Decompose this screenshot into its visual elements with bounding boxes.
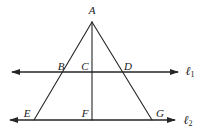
transversal-lines bbox=[10, 72, 178, 120]
line-label-l2: ℓ2 bbox=[184, 114, 193, 126]
line-label-l1-subscript: 1 bbox=[191, 70, 195, 79]
geometry-figure: A B C D E F G ℓ1 ℓ2 bbox=[0, 0, 208, 138]
triangle-segments bbox=[34, 22, 152, 120]
point-label-f: F bbox=[82, 108, 89, 119]
point-label-e: E bbox=[24, 108, 31, 119]
line-label-l1: ℓ1 bbox=[186, 65, 195, 77]
line-label-l2-subscript: 2 bbox=[189, 119, 193, 128]
point-label-a: A bbox=[89, 5, 96, 16]
segment-a-g bbox=[92, 22, 152, 120]
geometry-canvas bbox=[0, 0, 208, 138]
point-label-d: D bbox=[124, 61, 132, 72]
point-label-b: B bbox=[58, 61, 65, 72]
point-label-c: C bbox=[81, 61, 88, 72]
point-label-g: G bbox=[156, 108, 164, 119]
